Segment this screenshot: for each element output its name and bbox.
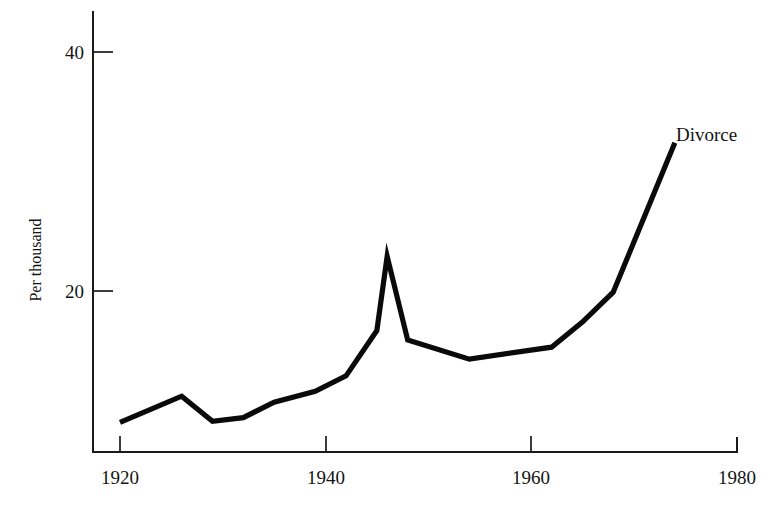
series-label-divorce: Divorce xyxy=(676,124,737,145)
y-axis-title: Per thousand xyxy=(27,218,44,301)
y-tick-label-20: 20 xyxy=(65,281,84,302)
x-tick-label-1960: 1960 xyxy=(512,467,550,488)
chart-container: 40 20 1920 1940 1960 1980 Per thousand D… xyxy=(0,0,781,521)
line-chart: 40 20 1920 1940 1960 1980 Per thousand D… xyxy=(0,0,781,521)
x-tick-label-1980: 1980 xyxy=(718,467,756,488)
x-tick-label-1940: 1940 xyxy=(307,467,345,488)
y-tick-label-40: 40 xyxy=(65,42,84,63)
x-tick-label-1920: 1920 xyxy=(101,467,139,488)
